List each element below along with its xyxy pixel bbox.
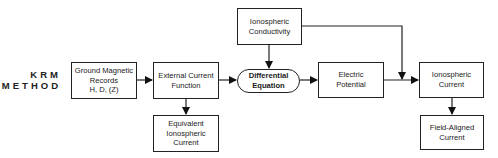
node-text: Current	[432, 80, 471, 90]
node-text: Field-Aligned	[430, 123, 474, 133]
node-electric-potential: Electric Potential	[318, 62, 384, 98]
node-text: Current	[166, 138, 205, 148]
node-equivalent-ionospheric-current: Equivalent Ionospheric Current	[153, 115, 219, 152]
node-text: Ground Magnetic	[75, 66, 133, 76]
node-external-current-function: External Current Function	[153, 62, 219, 99]
node-text: Equation	[249, 81, 289, 91]
node-field-aligned-current: Field-Aligned Current	[420, 115, 484, 150]
node-text: Current	[430, 133, 474, 143]
node-text: Differential	[249, 71, 289, 81]
node-text: External Current	[158, 71, 213, 81]
node-text: Potential	[336, 80, 366, 90]
node-text: Ionospheric	[432, 70, 471, 80]
node-ionospheric-conductivity: Ionospheric Conductivity	[237, 8, 302, 45]
node-ground-magnetic-records: Ground Magnetic Records H, D, (Z)	[71, 62, 137, 99]
node-ionospheric-current: Ionospheric Current	[419, 62, 484, 98]
node-text: Records	[75, 76, 133, 86]
node-text: Ionospheric	[166, 129, 205, 139]
node-text: Electric	[336, 70, 366, 80]
node-text: Conductivity	[249, 27, 290, 37]
node-text: Ionospheric	[249, 17, 290, 27]
node-text: H, D, (Z)	[75, 85, 133, 95]
node-differential-equation: Differential Equation	[237, 69, 300, 93]
node-text: Equivalent	[166, 119, 205, 129]
node-text: Function	[158, 81, 213, 91]
